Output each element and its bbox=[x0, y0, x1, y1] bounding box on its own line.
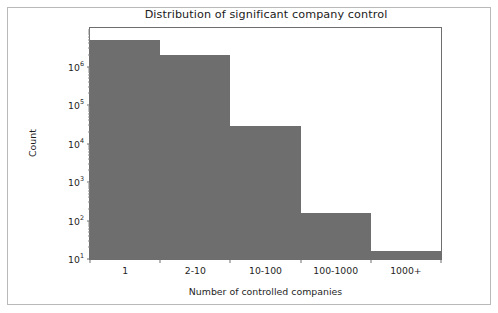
y-minor-tick-mark bbox=[88, 158, 90, 159]
bar-1000- bbox=[371, 251, 441, 259]
y-minor-tick-mark bbox=[88, 185, 90, 186]
y-tick-label: 103 bbox=[68, 177, 84, 188]
y-tick-label: 105 bbox=[68, 100, 84, 111]
y-minor-tick-mark bbox=[88, 222, 90, 223]
y-minor-tick-mark bbox=[88, 39, 90, 40]
x-tick-mark bbox=[370, 259, 371, 263]
y-minor-tick-mark bbox=[88, 208, 90, 209]
y-minor-tick-mark bbox=[88, 68, 90, 69]
y-minor-tick-mark bbox=[88, 70, 90, 71]
y-minor-tick-mark bbox=[88, 240, 90, 241]
y-minor-tick-mark bbox=[88, 170, 90, 171]
y-minor-tick-mark bbox=[88, 120, 90, 121]
x-tick-label: 1 bbox=[122, 265, 128, 276]
x-tick-mark bbox=[90, 259, 91, 263]
figure: Distribution of significant company cont… bbox=[0, 0, 498, 313]
y-minor-tick-mark bbox=[88, 86, 90, 87]
plot-area: 10110210310410510612-1010-100100-1000100… bbox=[89, 27, 442, 260]
y-minor-tick-mark bbox=[88, 232, 90, 233]
y-tick-label: 104 bbox=[68, 138, 84, 149]
y-minor-tick-mark bbox=[88, 155, 90, 156]
x-tick-label: 2-10 bbox=[185, 265, 206, 276]
y-minor-tick-mark bbox=[88, 187, 90, 188]
y-minor-tick-mark bbox=[88, 93, 90, 94]
y-minor-tick-mark bbox=[88, 108, 90, 109]
bar-1 bbox=[90, 40, 160, 259]
x-tick-label: 10-100 bbox=[249, 265, 282, 276]
y-minor-tick-mark bbox=[88, 235, 90, 236]
y-minor-tick-mark bbox=[88, 78, 90, 79]
y-minor-tick-mark bbox=[88, 163, 90, 164]
y-minor-tick-mark bbox=[88, 152, 90, 153]
y-minor-tick-mark bbox=[88, 29, 90, 30]
y-minor-tick-mark bbox=[88, 202, 90, 203]
y-minor-tick-mark bbox=[88, 131, 90, 132]
bar-2-10 bbox=[160, 55, 230, 259]
y-minor-tick-mark bbox=[88, 110, 90, 111]
y-minor-tick-mark bbox=[88, 81, 90, 82]
y-minor-tick-mark bbox=[88, 36, 90, 37]
y-tick-label: 106 bbox=[68, 61, 84, 72]
x-tick-mark bbox=[300, 259, 301, 263]
y-minor-tick-mark bbox=[88, 197, 90, 198]
y-minor-tick-mark bbox=[88, 43, 90, 44]
y-minor-tick-mark bbox=[88, 72, 90, 73]
y-minor-tick-mark bbox=[88, 247, 90, 248]
chart-title: Distribution of significant company cont… bbox=[89, 8, 443, 21]
y-minor-tick-mark bbox=[88, 31, 90, 32]
y-minor-tick-mark bbox=[88, 229, 90, 230]
bar-10-100 bbox=[230, 126, 300, 259]
x-tick-label: 100-1000 bbox=[313, 265, 358, 276]
y-minor-tick-mark bbox=[88, 116, 90, 117]
y-tick-label: 102 bbox=[68, 215, 84, 226]
y-minor-tick-mark bbox=[88, 145, 90, 146]
y-tick-label: 101 bbox=[68, 254, 84, 265]
y-minor-tick-mark bbox=[88, 75, 90, 76]
y-minor-tick-mark bbox=[88, 147, 90, 148]
x-axis-label: Number of controlled companies bbox=[89, 286, 442, 297]
y-minor-tick-mark bbox=[88, 149, 90, 150]
bar-100-1000 bbox=[301, 213, 371, 259]
y-minor-tick-mark bbox=[88, 125, 90, 126]
bar-series bbox=[90, 28, 441, 259]
y-minor-tick-mark bbox=[88, 48, 90, 49]
y-minor-tick-mark bbox=[88, 224, 90, 225]
y-minor-tick-mark bbox=[88, 190, 90, 191]
y-minor-tick-mark bbox=[88, 54, 90, 55]
y-minor-tick-mark bbox=[88, 106, 90, 107]
x-tick-label: 1000+ bbox=[390, 265, 421, 276]
y-axis-label: Count bbox=[27, 129, 38, 157]
x-tick-mark bbox=[160, 259, 161, 263]
y-minor-tick-mark bbox=[88, 183, 90, 184]
y-minor-tick-mark bbox=[88, 33, 90, 34]
x-tick-mark bbox=[441, 259, 442, 263]
y-minor-tick-mark bbox=[88, 226, 90, 227]
y-minor-tick-mark bbox=[88, 113, 90, 114]
x-tick-mark bbox=[230, 259, 231, 263]
y-minor-tick-mark bbox=[88, 193, 90, 194]
